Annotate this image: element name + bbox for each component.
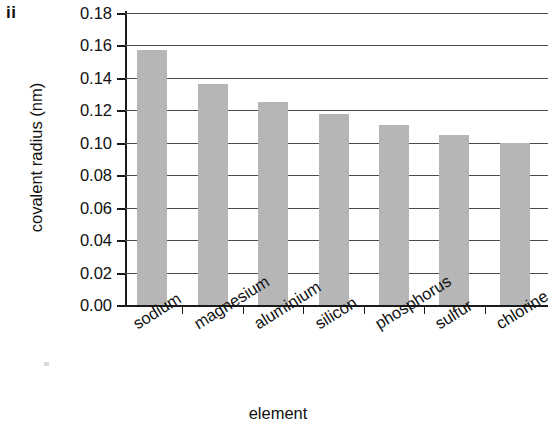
y-axis-tick <box>117 305 125 307</box>
y-axis-tick-labels: 0.000.020.040.060.080.100.120.140.160.18 <box>44 0 112 431</box>
y-axis-tick <box>117 45 125 47</box>
y-axis-tick <box>117 273 125 275</box>
x-axis-title: element <box>0 404 556 423</box>
chart-figure: ii covalent radius (nm) 0.000.020.040.06… <box>0 0 556 431</box>
gridline <box>125 78 548 79</box>
figure-enumeration-label: ii <box>6 4 16 21</box>
x-axis-tick <box>303 305 304 314</box>
plot-area <box>125 13 548 305</box>
y-axis-tick-label: 0.02 <box>50 264 112 281</box>
x-axis-tick <box>182 305 183 314</box>
x-axis-tick <box>364 305 365 314</box>
gridline <box>125 45 548 46</box>
y-axis-tick <box>117 175 125 177</box>
bar <box>137 50 167 305</box>
y-axis-tick-label: 0.08 <box>50 167 112 184</box>
bar <box>319 114 349 305</box>
y-axis-tick-label: 0.16 <box>50 37 112 54</box>
x-axis-tick <box>485 305 486 314</box>
y-axis-tick-label: 0.10 <box>50 135 112 152</box>
x-axis-tick <box>424 305 425 314</box>
y-axis-tick-label: 0.18 <box>50 5 112 22</box>
y-axis-tick <box>117 78 125 80</box>
y-axis-title: covalent radius (nm) <box>27 48 46 268</box>
y-axis-tick <box>117 208 125 210</box>
y-axis-tick-label: 0.00 <box>50 297 112 314</box>
y-axis-tick-label: 0.12 <box>50 102 112 119</box>
bar <box>198 84 228 305</box>
scan-artifact <box>44 362 49 366</box>
y-axis-tick <box>117 110 125 112</box>
y-axis-tick-label: 0.14 <box>50 70 112 87</box>
y-axis-tick <box>117 143 125 145</box>
gridline <box>125 13 548 14</box>
y-axis-tick-label: 0.04 <box>50 232 112 249</box>
bar <box>500 143 530 305</box>
x-axis-tick <box>243 305 244 314</box>
y-axis-tick <box>117 240 125 242</box>
y-axis-tick <box>117 13 125 15</box>
y-axis-tick-label: 0.06 <box>50 199 112 216</box>
bar <box>379 125 409 305</box>
gridline <box>125 110 548 111</box>
